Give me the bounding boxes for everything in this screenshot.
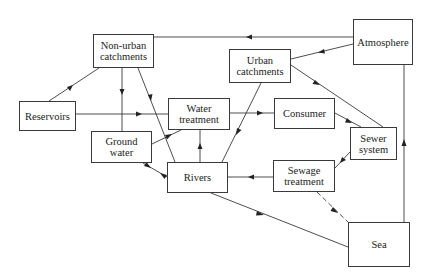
arrowhead-icon xyxy=(402,139,407,146)
node-consumer: Consumer xyxy=(274,98,335,129)
arrowhead-icon xyxy=(318,49,325,54)
arrowhead-icon xyxy=(331,207,339,213)
node-label: Sewer xyxy=(359,133,388,144)
arrowhead-icon xyxy=(160,173,167,179)
node-label: catchments xyxy=(236,66,283,77)
node-label: Sewage xyxy=(284,165,324,176)
node-sewer-system: Sewersystem xyxy=(350,127,397,160)
node-label: treatment xyxy=(179,114,219,125)
node-label: Sea xyxy=(371,239,386,250)
node-label: Non-urban xyxy=(100,40,147,51)
node-rivers: Rivers xyxy=(167,162,228,193)
node-water-treatment: Watertreatment xyxy=(168,98,230,130)
node-reservoirs: Reservoirs xyxy=(19,101,76,131)
node-atmosphere: Atmosphere xyxy=(353,19,413,65)
node-label: Reservoirs xyxy=(25,111,70,122)
node-label: Urban xyxy=(236,55,283,66)
node-label: treatment xyxy=(284,176,324,187)
node-label: Water xyxy=(179,103,219,114)
arrowhead-icon xyxy=(136,112,142,117)
arrowhead-icon xyxy=(198,143,203,149)
edge-sewagetreatment-sea xyxy=(317,192,348,222)
node-label: Consumer xyxy=(283,108,326,119)
node-label: water xyxy=(105,147,137,158)
node-label: Atmosphere xyxy=(357,37,408,48)
node-sewage-treatment: Sewagetreatment xyxy=(273,160,335,192)
node-ground-water: Groundwater xyxy=(91,131,152,163)
arrowhead-icon xyxy=(340,157,346,163)
arrowhead-icon xyxy=(246,35,252,40)
node-sea: Sea xyxy=(348,222,410,267)
node-label: catchments xyxy=(100,51,147,62)
arrowhead-icon xyxy=(120,89,125,95)
edge-nonurban-reservoirs xyxy=(49,68,99,101)
node-urban-catchments: Urbancatchments xyxy=(229,49,291,83)
edge-rivers-sea xyxy=(211,193,348,247)
arrowhead-icon xyxy=(257,111,263,116)
arrowhead-icon xyxy=(67,85,73,91)
arrowhead-icon xyxy=(236,128,242,135)
node-label: Ground xyxy=(105,136,137,147)
node-label: system xyxy=(359,144,388,155)
node-label: Rivers xyxy=(184,172,211,183)
arrowhead-icon xyxy=(248,175,254,180)
node-non-urban-catchments: Non-urbancatchments xyxy=(93,34,154,68)
